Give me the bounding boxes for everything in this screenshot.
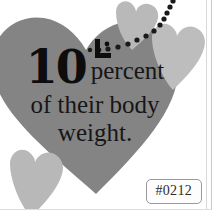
frame-rule-bottom xyxy=(0,209,212,210)
heart-statistic-infographic: 10percent of their body weight. #0212 xyxy=(0,0,212,210)
stylized-quote-bracket-icon xyxy=(92,38,114,60)
heart-bottom-left-shape xyxy=(10,150,63,210)
id-badge: #0212 xyxy=(146,179,203,204)
